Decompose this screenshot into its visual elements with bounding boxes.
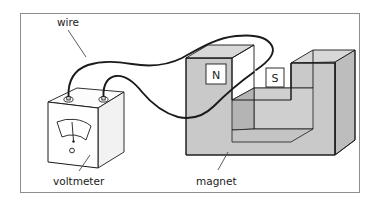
diagram-artwork: N S <box>0 0 381 206</box>
magnet-inner-left-face <box>232 88 254 130</box>
voltmeter-label: voltmeter <box>53 175 105 187</box>
wire-label: wire <box>57 16 79 28</box>
north-pole-marker: N <box>206 64 226 84</box>
south-pole-label: S <box>272 72 279 85</box>
wire-leader-line <box>68 30 86 57</box>
north-pole-label: N <box>212 69 220 82</box>
voltmeter-zero-adjust-knob[interactable] <box>70 148 75 153</box>
magnet-right-side-face <box>335 50 355 155</box>
voltmeter-body <box>48 88 124 168</box>
voltmeter-needle-pivot <box>72 140 74 142</box>
magnet-inner-back-face <box>254 88 313 129</box>
diagram-canvas: N S <box>0 0 381 206</box>
magnet-label: magnet <box>196 175 237 187</box>
south-pole-marker: S <box>266 68 284 87</box>
terminal-right-post <box>102 97 105 100</box>
terminal-left-post <box>67 97 70 100</box>
magnet-body <box>186 45 355 155</box>
